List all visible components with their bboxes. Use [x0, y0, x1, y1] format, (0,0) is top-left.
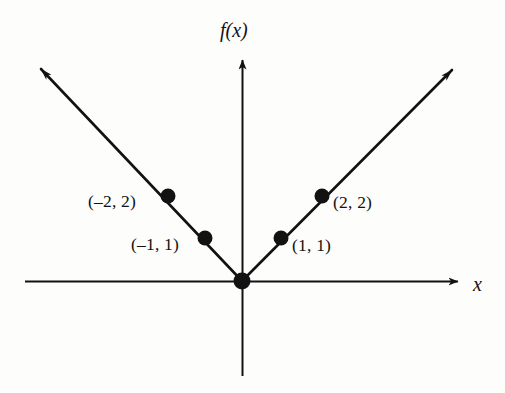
point-label-neg2-2: (–2, 2)	[88, 193, 136, 211]
x-axis-label: x	[473, 274, 482, 294]
graph-line-right-branch	[242, 70, 452, 281]
graph-canvas	[0, 0, 505, 393]
absolute-value-graph-figure: f(x) x (–2, 2) (–1, 1) (1, 1) (2, 2)	[0, 0, 505, 393]
point-label-1-1: (1, 1)	[292, 237, 331, 255]
data-point-1-1	[274, 231, 289, 246]
data-point-neg2-2	[161, 189, 176, 204]
data-point-2-2	[315, 189, 330, 204]
point-label-neg1-1: (–1, 1)	[131, 236, 179, 254]
data-point-neg1-1	[198, 231, 213, 246]
data-point-origin	[234, 273, 251, 290]
point-label-2-2: (2, 2)	[333, 194, 372, 212]
y-axis-label: f(x)	[220, 20, 248, 40]
